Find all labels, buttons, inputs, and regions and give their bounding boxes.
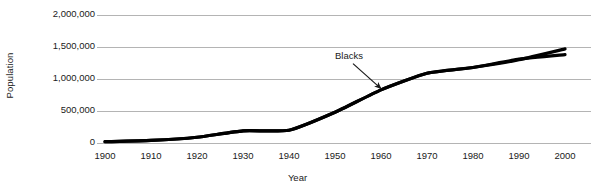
x-axis-tick-label: 1900 — [82, 150, 128, 161]
y-axis-tick-label: 1,000,000 — [15, 72, 95, 83]
y-axis-tick-label: 500,000 — [15, 104, 95, 115]
population-line-chart: Population Year 0500,0001,000,0001,500,0… — [0, 0, 595, 192]
gridlines — [97, 15, 591, 143]
x-axis-tick-label: 1950 — [312, 150, 358, 161]
annotation-arrow-line — [353, 64, 381, 89]
annotation-arrow — [353, 64, 381, 89]
x-axis-title: Year — [0, 172, 595, 183]
chart-plot-area — [0, 0, 595, 192]
x-axis-tick-label: 1920 — [174, 150, 220, 161]
y-axis-title-text: Population — [5, 52, 16, 98]
x-axis-tick-label: 1980 — [450, 150, 496, 161]
x-axis-tick-label: 1930 — [220, 150, 266, 161]
series-line — [105, 55, 565, 142]
y-axis-tick-label: 0 — [15, 136, 95, 147]
x-axis-tick-label: 2000 — [542, 150, 588, 161]
x-axis-tick-label: 1960 — [358, 150, 404, 161]
annotation-label-blacks: Blacks — [335, 50, 363, 61]
x-axis-tick-label: 1910 — [128, 150, 174, 161]
x-axis-tick-label: 1970 — [404, 150, 450, 161]
data-series-lines — [105, 49, 565, 142]
y-axis-tick-label: 1,500,000 — [15, 40, 95, 51]
x-axis-tick-label: 1940 — [266, 150, 312, 161]
y-axis-tick-label: 2,000,000 — [15, 8, 95, 19]
x-axis-tick-label: 1990 — [496, 150, 542, 161]
